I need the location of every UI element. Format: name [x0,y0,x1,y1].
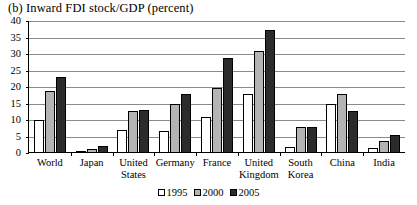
legend-label: 1995 [167,187,188,198]
bar [265,30,275,153]
legend-item: 1995 [158,187,188,198]
legend-swatch-icon [230,189,237,196]
bar [34,120,44,153]
bar [212,88,222,153]
bar-group [321,21,363,153]
x-axis-category-label: India [359,157,409,169]
bar [254,51,264,153]
bar [45,91,55,153]
bar [243,94,253,153]
bar [390,135,400,153]
legend-swatch-icon [194,189,201,196]
bar [223,58,233,153]
bar [159,131,169,153]
bar [296,127,306,153]
bar-group [154,21,196,153]
bar [348,111,358,153]
bar [170,104,180,153]
bar [56,77,66,153]
bar [379,141,389,153]
legend-label: 2005 [239,187,260,198]
x-axis-tick-mark [363,153,364,156]
y-axis-tick-labels: 0510152025303540 [0,21,26,153]
bar-group [280,21,322,153]
bar [128,111,138,153]
x-axis-tick-mark [113,153,114,156]
figure-inward-fdi-stock-gdp: (b) Inward FDI stock/GDP (percent) 05101… [0,0,417,205]
y-axis-tick-label: 15 [11,99,22,109]
bar [117,130,127,153]
x-axis-tick-mark [280,153,281,156]
bar [337,94,347,153]
bar [76,151,86,153]
bar-group [363,21,405,153]
bar-group [196,21,238,153]
bar [139,110,149,153]
x-axis-tick-mark [154,153,155,156]
x-axis-tick-mark [196,153,197,156]
bar [326,104,336,154]
legend-label: 2000 [203,187,224,198]
legend-swatch-icon [158,189,165,196]
chart-title: (b) Inward FDI stock/GDP (percent) [8,1,194,16]
bar [285,147,295,153]
bar [201,117,211,153]
x-axis-tick-mark [238,153,239,156]
bar [181,94,191,153]
y-axis-tick-label: 35 [11,33,22,43]
y-axis-tick-label: 40 [11,16,22,26]
bar-group [29,21,71,153]
bar [307,127,317,153]
bar [368,148,378,153]
bar-group [71,21,113,153]
y-axis-tick-label: 0 [16,148,21,158]
legend-item: 2000 [194,187,224,198]
y-axis-tick-label: 20 [11,82,22,92]
y-axis-tick-label: 5 [16,132,21,142]
x-axis-tick-mark [71,153,72,156]
y-axis-tick-mark [26,153,29,154]
bar-group [238,21,280,153]
y-axis-tick-label: 30 [11,49,22,59]
legend-item: 2005 [230,187,260,198]
x-axis-category-labels: WorldJapanUnited StatesGermanyFranceUnit… [29,157,405,187]
chart-legend: 199520002005 [0,187,417,198]
y-axis-tick-label: 10 [11,115,22,125]
bar [98,146,108,153]
y-axis-tick-label: 25 [11,66,22,76]
bars-layer [29,21,405,153]
bar [87,149,97,153]
x-axis-tick-mark [321,153,322,156]
bar-group [113,21,155,153]
